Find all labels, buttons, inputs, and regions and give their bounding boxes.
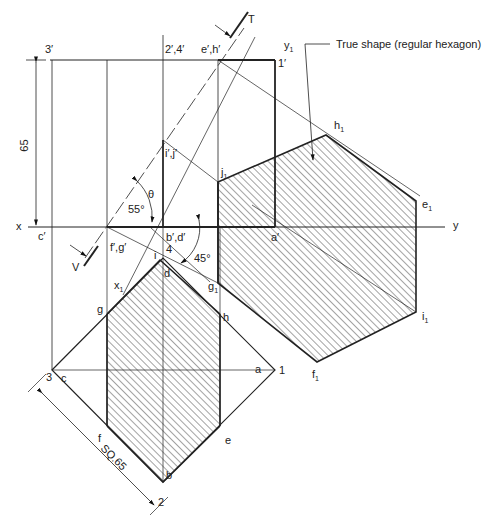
label-V: V xyxy=(72,262,79,273)
label-T: T xyxy=(248,14,255,25)
label-y1: y1 xyxy=(284,40,293,53)
label-x: x xyxy=(16,221,22,232)
label-c-prime: c′ xyxy=(38,231,46,242)
label-g: g xyxy=(97,304,103,315)
label-a-prime: a′ xyxy=(271,232,279,243)
label-f-g-prime: f′,g′ xyxy=(110,242,126,253)
label-x1: x1 xyxy=(114,280,123,293)
label-e-h-prime: e′,h′ xyxy=(201,44,220,55)
label-height-65: 65 xyxy=(19,139,30,151)
label-i: i xyxy=(154,250,156,261)
label-e: e xyxy=(225,435,231,446)
label-b-d-prime: b′,d′ xyxy=(166,232,185,243)
label-1-prime: 1′ xyxy=(278,58,286,69)
label-i-j-prime: i′,j′ xyxy=(165,148,177,159)
label-a: a xyxy=(255,364,261,375)
label-4: 4 xyxy=(166,244,172,255)
label-f: f xyxy=(98,433,101,444)
label-f1: f1 xyxy=(312,369,319,382)
label-b: b xyxy=(166,470,172,481)
label-i1: i1 xyxy=(422,311,428,324)
label-j1: j1 xyxy=(221,167,227,180)
label-e1: e1 xyxy=(422,199,432,212)
label-y: y xyxy=(453,220,459,231)
label-3: 3 xyxy=(46,372,52,383)
label-2: 2 xyxy=(158,497,164,508)
label-h: h xyxy=(223,312,229,323)
label-d: d xyxy=(164,268,170,279)
label-3-prime: 3′ xyxy=(45,44,53,55)
label-h1: h1 xyxy=(334,120,344,133)
label-g1: g1 xyxy=(208,281,218,294)
label-theta: θ xyxy=(148,189,154,200)
label-1: 1 xyxy=(279,365,285,376)
label-45-deg: 45° xyxy=(194,253,211,264)
label-c: c xyxy=(61,373,67,384)
label-2-4-prime: 2′,4′ xyxy=(165,44,184,55)
true-shape-note: True shape (regular hexagon) xyxy=(336,38,481,50)
label-55-deg: 55° xyxy=(128,204,145,215)
